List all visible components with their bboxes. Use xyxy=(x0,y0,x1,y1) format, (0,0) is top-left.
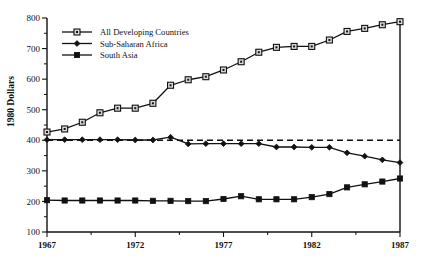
series-0-marker-center xyxy=(117,107,119,109)
series-1-marker xyxy=(379,157,385,163)
series-2-marker xyxy=(80,198,85,203)
series-0-marker-center xyxy=(134,107,136,109)
series-0-marker-center xyxy=(152,102,154,104)
series-0-marker-center xyxy=(311,45,313,47)
series-1-marker xyxy=(79,137,85,143)
series-0-marker-center xyxy=(223,69,225,71)
series-2-marker xyxy=(203,199,208,204)
series-0-marker-center xyxy=(240,61,242,63)
series-1-marker xyxy=(203,141,209,147)
series-2-marker xyxy=(327,191,332,196)
y-axis-title: 1980 Dollars xyxy=(6,76,16,127)
series-1-marker xyxy=(291,144,297,150)
series-0-marker-center xyxy=(293,45,295,47)
series-0-marker-center xyxy=(205,76,207,78)
series-1-marker xyxy=(344,150,350,156)
series-2-marker xyxy=(256,197,261,202)
legend-label-1: Sub-Saharan Africa xyxy=(100,39,168,49)
series-2-marker xyxy=(150,198,155,203)
y-tick-label: 700 xyxy=(27,44,41,54)
series-0-marker-center xyxy=(81,121,83,123)
y-tick-label: 500 xyxy=(27,105,41,115)
series-2-marker xyxy=(344,185,349,190)
series-0-marker-center xyxy=(364,27,366,29)
series-0-marker-center xyxy=(381,24,383,26)
series-2-marker xyxy=(292,197,297,202)
series-2-marker xyxy=(62,198,67,203)
series-1-marker xyxy=(185,141,191,147)
series-1-marker xyxy=(150,137,156,143)
series-1-marker xyxy=(397,160,403,166)
filled-diamond-marker-icon xyxy=(74,41,80,47)
series-2-marker xyxy=(44,198,49,203)
series-1-marker xyxy=(327,144,333,150)
series-0-marker-center xyxy=(346,30,348,32)
series-2-marker xyxy=(186,199,191,204)
x-tick-label: 1982 xyxy=(303,240,322,250)
x-tick-label: 1977 xyxy=(215,240,234,250)
series-2-marker xyxy=(274,197,279,202)
series-1-marker xyxy=(132,137,138,143)
series-1-marker xyxy=(62,137,68,143)
chart-canvas: 1002003004005006007008001967197219771982… xyxy=(0,0,426,270)
series-1-marker xyxy=(115,137,121,143)
series-1-marker xyxy=(44,137,50,143)
series-2-marker xyxy=(115,198,120,203)
y-tick-label: 200 xyxy=(27,197,41,207)
series-0-marker-center xyxy=(258,51,260,53)
series-2-marker xyxy=(362,182,367,187)
series-2-marker xyxy=(133,198,138,203)
x-tick-label: 1967 xyxy=(38,240,57,250)
series-2-marker xyxy=(380,179,385,184)
series-1-marker xyxy=(274,144,280,150)
series-2-marker xyxy=(97,198,102,203)
series-0-marker-center xyxy=(399,21,401,23)
series-0-marker-center xyxy=(187,79,189,81)
series-1-marker xyxy=(168,134,174,140)
x-tick-label: 1987 xyxy=(391,240,410,250)
series-0-marker-center xyxy=(99,112,101,114)
series-1-marker xyxy=(238,141,244,147)
series-1-marker xyxy=(309,144,315,150)
y-tick-label: 300 xyxy=(27,166,41,176)
y-tick-label: 100 xyxy=(27,227,41,237)
open-square-marker-icon-center xyxy=(76,31,78,33)
y-tick-label: 400 xyxy=(27,135,41,145)
x-tick-label: 1972 xyxy=(126,240,145,250)
series-2-marker xyxy=(397,176,402,181)
y-tick-label: 600 xyxy=(27,74,41,84)
y-tick-label: 800 xyxy=(27,13,41,23)
series-0-marker-center xyxy=(46,131,48,133)
series-2-marker xyxy=(309,195,314,200)
series-0-marker-center xyxy=(275,46,277,48)
series-0-marker-center xyxy=(170,84,172,86)
series-2-marker xyxy=(168,198,173,203)
legend-label-2: South Asia xyxy=(100,50,138,60)
series-2-marker xyxy=(221,196,226,201)
filled-square-marker-icon xyxy=(74,52,79,57)
line-chart: 1002003004005006007008001967197219771982… xyxy=(0,0,426,270)
series-1-marker xyxy=(362,153,368,159)
legend-label-0: All Developing Countries xyxy=(100,27,189,37)
series-2-marker xyxy=(239,194,244,199)
series-1-marker xyxy=(97,137,103,143)
series-1-marker xyxy=(221,141,227,147)
series-0-marker-center xyxy=(64,128,66,130)
series-1-marker xyxy=(256,141,262,147)
series-0-marker-center xyxy=(328,39,330,41)
